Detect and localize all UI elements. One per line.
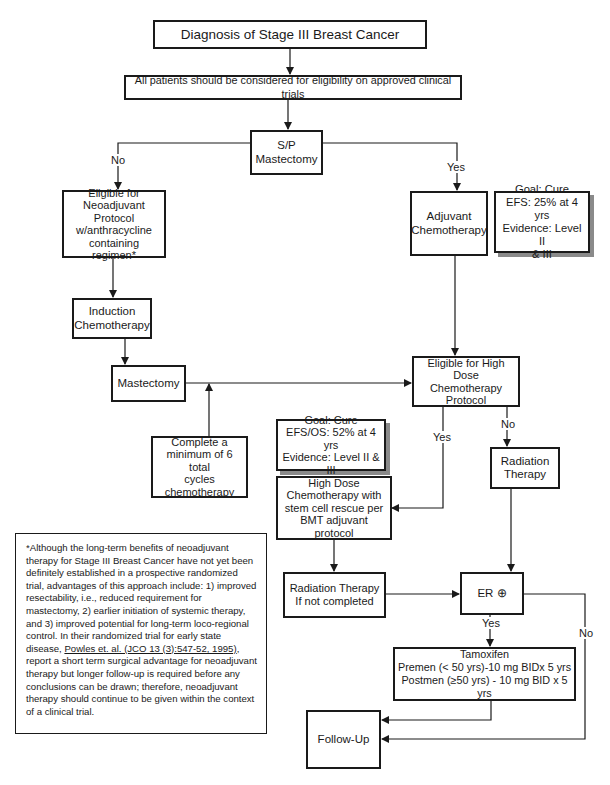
node-text-line: ER ⊕ [477, 587, 506, 601]
node-text-line: Follow-Up [318, 733, 370, 747]
node-text-line: & III [532, 248, 552, 261]
edge-label-er-no: No [578, 627, 594, 639]
node-text-line: Protocol [94, 212, 134, 225]
node-sp-mastectomy: S/P Mastectomy [250, 130, 323, 175]
node-text-line: containing regimen* [66, 237, 162, 262]
footnote-text-before: *Although the long-term benefits of neoa… [26, 542, 256, 654]
node-text-line: Premen (< 50 yrs)-10 mg BIDx 5 yrs [398, 661, 571, 674]
node-text-line: Mastectomy [256, 153, 318, 167]
node-text-line: cycles [184, 473, 215, 486]
node-high-dose-chemo: High Dose Chemotherapy with stem cell re… [276, 476, 392, 540]
node-text-line: stem cell rescue per [285, 502, 383, 515]
node-text-line: Postmen (≥50 yrs) - 10 mg BID x 5 yrs [397, 674, 572, 700]
node-text-line: S/P [277, 139, 296, 153]
node-text-line: Protocol [446, 394, 486, 407]
node-text-line: Eligible for High Dose [416, 357, 516, 382]
node-er-positive: ER ⊕ [460, 572, 524, 615]
node-text-line: If not completed [295, 595, 373, 609]
footnote-citation: Powles et. al. (JCO 13 (3):547-52, 1995) [64, 643, 236, 654]
node-goal-high-dose: Goal: Cure EFS/OS: 52% at 4 yrs Evidence… [276, 419, 386, 471]
node-text-line: BMT adjuvant protocol [280, 514, 388, 539]
node-text-line: Goal: Cure [304, 414, 357, 427]
node-induction: Induction Chemotherapy [72, 298, 152, 339]
edge-label-hd-yes: Yes [432, 431, 452, 443]
node-text-line: Chemotherapy with [287, 489, 382, 502]
node-text-line: Induction [89, 305, 136, 319]
node-goal-adjuvant: Goal: Cure EFS: 25% at 4 yrs Evidence: L… [494, 191, 590, 253]
node-text-line: Mastectomy [118, 377, 180, 391]
node-eligible-high-dose: Eligible for High Dose Chemotherapy Prot… [412, 356, 520, 407]
node-text-line: High Dose [308, 477, 359, 490]
node-text-line: chemotherapy [165, 486, 235, 499]
node-clinical-trials: All patients should be considered for el… [124, 75, 462, 100]
node-follow-up: Follow-Up [306, 710, 381, 769]
node-radiation-therapy: Radiation Therapy [490, 447, 560, 489]
node-neoadjuvant: Eligible for Neoadjuvant Protocol w/anth… [62, 190, 166, 258]
node-text-line: w/anthracycline [76, 224, 152, 237]
node-text-line: EFS: 25% at 4 yrs [498, 196, 586, 222]
edge-label-sp-no: No [110, 154, 126, 166]
node-text-line: Chemotherapy [411, 224, 486, 238]
node-diagnosis-text: Diagnosis of Stage III Breast Cancer [181, 28, 399, 42]
node-radiation-if-not-completed: Radiation Therapy If not completed [283, 572, 386, 618]
node-mastectomy: Mastectomy [111, 365, 186, 402]
footnote-box: *Although the long-term benefits of neoa… [15, 533, 267, 734]
node-text-line: Therapy [504, 468, 546, 482]
node-text-line: Radiation [501, 455, 550, 469]
node-text-line: Neoadjuvant [83, 199, 145, 212]
node-text-line: Eligible for [88, 187, 139, 200]
node-tamoxifen: Tamoxifen Premen (< 50 yrs)-10 mg BIDx 5… [393, 647, 576, 701]
edge-label-hd-no: No [500, 418, 516, 430]
node-text-line: Evidence: Level II [498, 222, 586, 248]
node-text-line: Tamoxifen [460, 648, 509, 661]
node-text-line: Chemotherapy [430, 382, 502, 395]
node-text-line: Evidence: Level II & III [280, 451, 382, 476]
flowchart: Diagnosis of Stage III Breast Cancer All… [0, 0, 610, 785]
node-diagnosis: Diagnosis of Stage III Breast Cancer [153, 20, 427, 49]
node-adjuvant: Adjuvant Chemotherapy [410, 191, 488, 256]
node-text-line: minimum of 6 total [155, 448, 244, 473]
edge-label-sp-yes: Yes [446, 161, 466, 173]
node-text-line: EFS/OS: 52% at 4 yrs [280, 426, 382, 451]
node-text-line: Complete a [171, 436, 227, 449]
node-text-line: Chemotherapy [74, 319, 149, 333]
node-text-line: Goal: Cure [515, 183, 569, 196]
node-complete-cycles: Complete a minimum of 6 total cycles che… [151, 436, 248, 498]
edge-label-er-yes: Yes [481, 617, 501, 629]
node-text-line: Radiation Therapy [290, 582, 380, 596]
node-text-line: Adjuvant [427, 210, 472, 224]
node-clinical-trials-text: All patients should be considered for el… [128, 74, 458, 101]
